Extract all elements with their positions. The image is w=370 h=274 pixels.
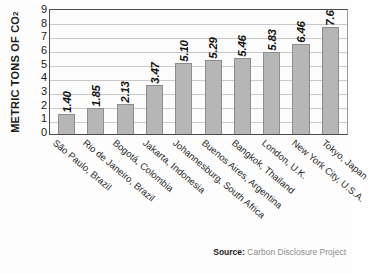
bar-group[interactable]: 6.46	[287, 10, 315, 134]
y-axis-title-text: METRIC TONS OF CO	[9, 16, 21, 133]
bar-value-label: 5.46	[236, 26, 248, 66]
y-tick-label: 5	[41, 60, 47, 69]
bar-value-label: 5.83	[266, 20, 278, 60]
bar-group[interactable]: 5.29	[199, 10, 227, 134]
y-axis-title-subscript: 2	[11, 11, 20, 16]
bar[interactable]	[234, 58, 251, 134]
y-tick-label: 0	[41, 128, 47, 137]
y-tick-label: 2	[41, 101, 47, 110]
bar-value-label: 5.29	[207, 28, 219, 68]
y-axis-title: METRIC TONS OF CO2	[6, 8, 24, 136]
y-axis-tick-labels: 9876543210	[34, 8, 47, 135]
bar[interactable]	[175, 63, 192, 134]
bar-value-label: 1.85	[90, 76, 102, 116]
y-tick-label: 7	[41, 32, 47, 41]
bar-value-label: 1.40	[61, 82, 73, 122]
bar[interactable]	[205, 60, 222, 134]
bar[interactable]	[292, 44, 309, 134]
bar-group[interactable]: 5.83	[258, 10, 286, 134]
source-attribution: Source: Carbon Disclosure Project	[213, 247, 346, 257]
bar-group[interactable]: 3.47	[141, 10, 169, 134]
source-text: Carbon Disclosure Project	[247, 247, 346, 257]
y-tick-label: 9	[41, 5, 47, 14]
bar-series: 1.401.852.133.475.105.295.465.836.467.65	[50, 10, 347, 134]
bar[interactable]	[322, 27, 339, 134]
bar-group[interactable]: 2.13	[111, 10, 139, 134]
bar-value-label: 5.10	[178, 31, 190, 71]
y-tick-label: 3	[41, 87, 47, 96]
plot-area: 1.401.852.133.475.105.295.465.836.467.65	[49, 9, 348, 135]
bar-value-label: 2.13	[119, 72, 131, 112]
bar-group[interactable]: 5.10	[170, 10, 198, 134]
y-tick-label: 1	[41, 114, 47, 123]
source-label: Source:	[213, 247, 245, 257]
bar-group[interactable]: 5.46	[229, 10, 257, 134]
y-tick-label: 6	[41, 46, 47, 55]
bar-value-label: 6.46	[295, 12, 307, 52]
y-tick-label: 4	[41, 73, 47, 82]
bar-group[interactable]: 1.85	[82, 10, 110, 134]
bar-group[interactable]: 1.40	[53, 10, 81, 134]
bar[interactable]	[263, 52, 280, 134]
bar-value-label: 3.47	[149, 53, 161, 93]
x-axis-category-labels: São Paulo, BrazilRio de Janeiro, BrazilB…	[49, 137, 348, 232]
y-tick-label: 8	[41, 19, 47, 28]
bar-value-label: 7.65	[324, 9, 336, 35]
bar-group[interactable]: 7.65	[317, 10, 345, 134]
